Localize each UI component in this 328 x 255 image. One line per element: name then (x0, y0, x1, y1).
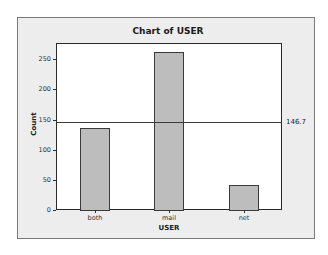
x-tick-label: mail (149, 214, 189, 222)
x-tick-label: net (224, 214, 264, 222)
y-tick (53, 59, 56, 60)
y-tick-label: 0 (27, 206, 51, 214)
y-tick-label: 250 (27, 55, 51, 63)
reference-line-label: 146.7 (286, 118, 306, 126)
y-tick-label: 200 (27, 85, 51, 93)
y-tick (53, 120, 56, 121)
y-tick (53, 180, 56, 181)
x-axis-title: USER (56, 224, 282, 232)
y-tick (53, 210, 56, 211)
bar-both (80, 128, 110, 211)
y-tick-label: 50 (27, 176, 51, 184)
y-axis-title: Count (30, 104, 38, 144)
x-tick (244, 210, 245, 213)
y-tick (53, 150, 56, 151)
y-tick-label: 100 (27, 146, 51, 154)
y-tick (53, 89, 56, 90)
x-tick (169, 210, 170, 213)
reference-line (56, 122, 282, 123)
bar-mail (154, 52, 184, 211)
x-tick-label: both (75, 214, 115, 222)
chart-title: Chart of USER (0, 26, 328, 36)
bar-net (229, 185, 259, 211)
x-tick (95, 210, 96, 213)
